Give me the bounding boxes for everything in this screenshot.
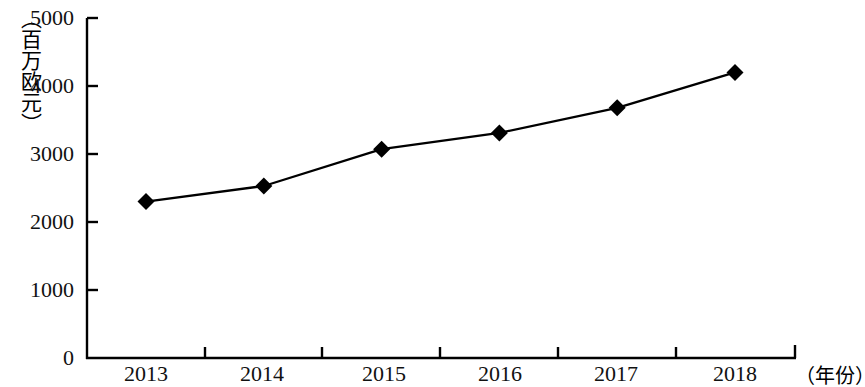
data-point-marker-2016 [491,124,508,141]
chart-canvas [0,0,865,387]
axes-group [86,18,796,359]
series-line [146,72,735,201]
data-point-marker-2014 [255,177,272,194]
series-markers [138,64,744,210]
data-point-marker-2018 [727,64,744,81]
data-point-marker-2013 [138,193,155,210]
data-series-group [138,64,744,210]
data-point-marker-2015 [373,141,390,158]
data-point-marker-2017 [609,99,626,116]
line-chart: （百万欧元） （年份） 5000 4000 3000 2000 1000 0 2… [0,0,865,387]
